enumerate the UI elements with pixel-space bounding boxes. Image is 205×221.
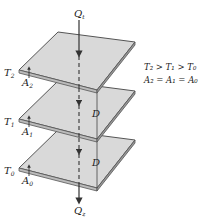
temperature-relation: T₂ > T₁ > T₀ bbox=[144, 62, 197, 72]
area-label-0: A0 bbox=[21, 175, 33, 187]
diagram-canvas: Qt Qz T2 A2 T1 A1 T0 A0 D D T₂ > T₁ > T₀… bbox=[0, 0, 205, 221]
plate-0-top bbox=[19, 130, 135, 188]
plate-2-top bbox=[19, 32, 135, 90]
gap-label-2: D bbox=[91, 157, 100, 168]
heat-out-label: Qz bbox=[74, 205, 86, 217]
area-label-2: A2 bbox=[21, 77, 33, 89]
temp-label-0: T0 bbox=[4, 165, 15, 177]
temp-label-2: T2 bbox=[4, 67, 15, 79]
plate-1-top bbox=[19, 81, 135, 139]
gap-label-1: D bbox=[91, 108, 100, 119]
area-relation: A₂ = A₁ = A₀ bbox=[143, 75, 198, 85]
heat-in-label: Qt bbox=[74, 8, 85, 20]
plate-2 bbox=[19, 32, 135, 93]
temp-label-1: T1 bbox=[4, 116, 15, 128]
plate-1 bbox=[19, 81, 135, 142]
area-label-1: A1 bbox=[21, 126, 33, 138]
plate-0 bbox=[19, 130, 135, 191]
